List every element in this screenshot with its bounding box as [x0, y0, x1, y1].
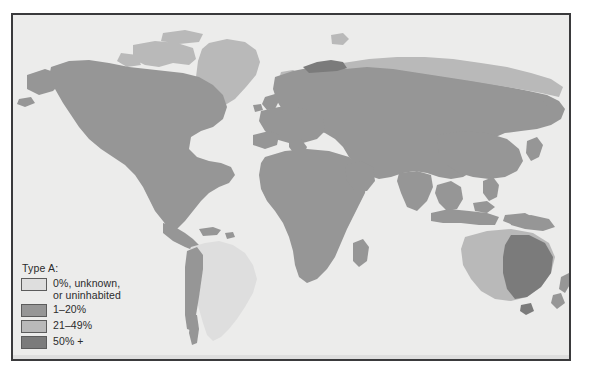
legend-label-2: 21–49% [53, 319, 92, 331]
legend-item-3: 50% + [21, 335, 161, 349]
region-antarctica [13, 355, 569, 359]
legend-item-2: 21–49% [21, 319, 161, 333]
legend-swatch-2 [21, 320, 47, 333]
legend-label-0: 0%, unknown, or uninhabited [53, 277, 121, 301]
map-frame: .light { fill: #dedede; } .mid { fill: #… [11, 13, 571, 361]
legend-title: Type A: [22, 262, 161, 274]
legend-label-1: 1–20% [53, 303, 86, 315]
legend-label-3: 50% + [53, 335, 84, 347]
map-legend: Type A: 0%, unknown, or uninhabited 1–20… [21, 262, 161, 351]
world-map-figure: .light { fill: #dedede; } .mid { fill: #… [0, 0, 593, 380]
legend-swatch-1 [21, 304, 47, 317]
legend-item-0: 0%, unknown, or uninhabited [21, 277, 161, 301]
legend-swatch-0 [21, 278, 47, 291]
legend-item-1: 1–20% [21, 303, 161, 317]
legend-swatch-3 [21, 336, 47, 349]
